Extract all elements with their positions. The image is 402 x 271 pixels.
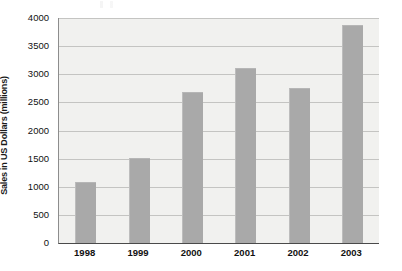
x-axis-tick-label: 2000 [161, 247, 221, 258]
y-axis-tick-label: 2000 [14, 125, 54, 137]
gridline [59, 187, 379, 188]
y-axis-tick-label: 4000 [14, 12, 54, 24]
y-axis-tick-label: 3000 [14, 68, 54, 80]
bar-2001 [235, 68, 256, 244]
bar-2003 [342, 25, 363, 243]
gridline [59, 74, 379, 75]
plot-area [58, 18, 379, 244]
bar-chart-figure: Sales in US Dollars (millions) 050010001… [0, 0, 402, 271]
gridline [59, 46, 379, 47]
x-axis-tick-labels: 199819992000200120022003 [58, 247, 378, 265]
bar-2000 [182, 92, 203, 243]
x-axis-tick-label: 2002 [268, 247, 328, 258]
gridline [59, 18, 379, 19]
scan-artifact [96, 1, 156, 8]
bar-1998 [75, 182, 96, 243]
y-axis-tick-label: 3500 [14, 40, 54, 52]
gridline [59, 102, 379, 103]
y-axis-tick-labels: 05001000150020002500300035004000 [14, 0, 54, 271]
y-axis-tick-label: 0 [14, 237, 54, 249]
x-axis-tick-label: 1998 [55, 247, 115, 258]
bar-2002 [289, 88, 310, 243]
y-axis-tick-label: 500 [14, 209, 54, 221]
x-axis-tick-label: 1999 [108, 247, 168, 258]
gridline [59, 243, 379, 244]
bar-1999 [129, 158, 150, 244]
gridline [59, 131, 379, 132]
y-axis-tick-label: 1000 [14, 181, 54, 193]
x-axis-tick-label: 2001 [215, 247, 275, 258]
y-axis-tick-label: 1500 [14, 153, 54, 165]
gridline [59, 159, 379, 160]
y-axis-tick-label: 2500 [14, 96, 54, 108]
gridline [59, 215, 379, 216]
x-axis-tick-label: 2003 [321, 247, 381, 258]
